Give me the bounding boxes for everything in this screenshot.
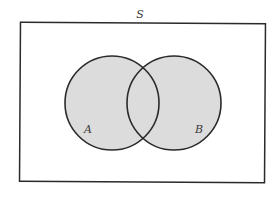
universe-label: S bbox=[136, 8, 144, 21]
set-a-label: A bbox=[83, 123, 92, 136]
venn-diagram: S A B bbox=[0, 0, 280, 200]
set-b-label: B bbox=[194, 123, 203, 136]
